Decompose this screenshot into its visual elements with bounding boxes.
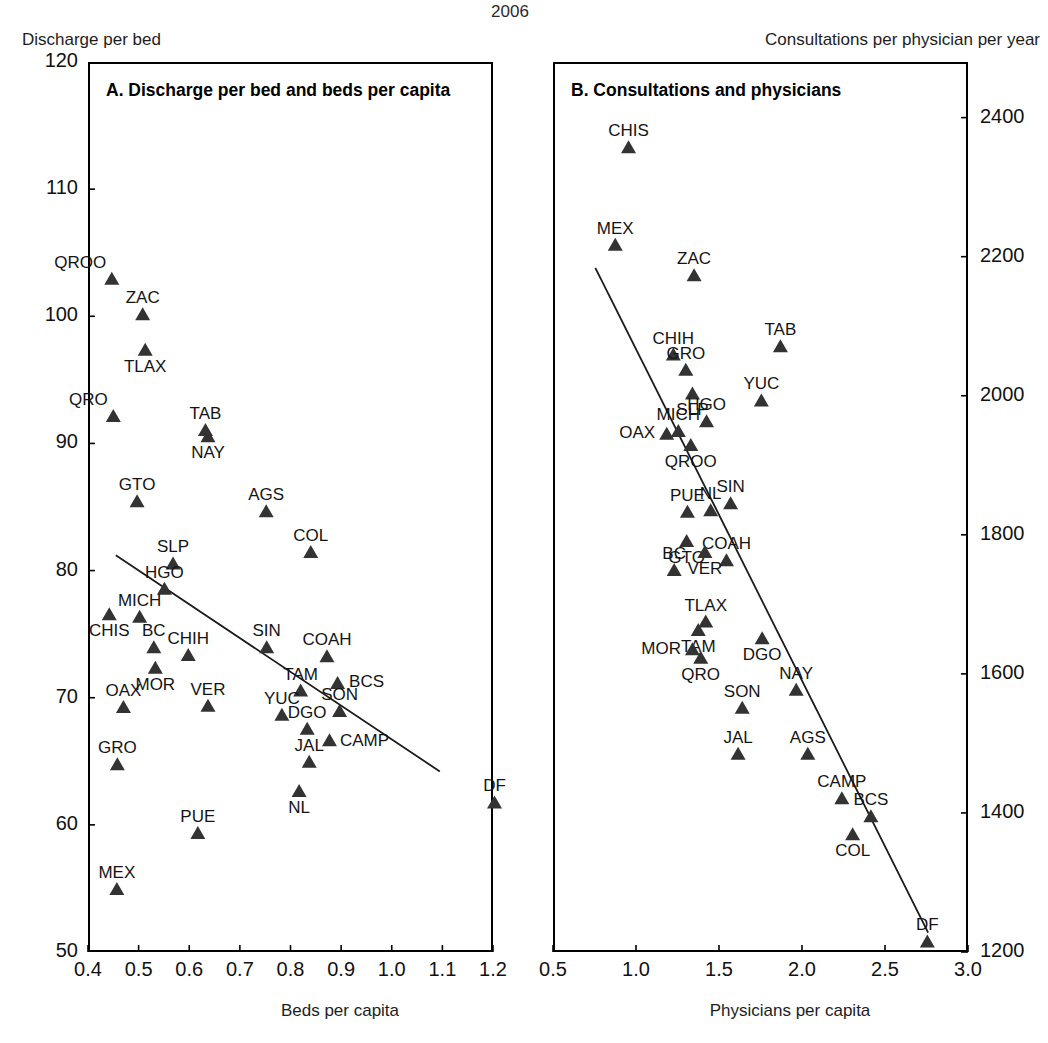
x-tick-label: 0.8 bbox=[264, 958, 318, 981]
y-tick-label: 50 bbox=[26, 939, 78, 962]
y-tick-label: 1200 bbox=[980, 939, 1042, 962]
y-tick-label: 1600 bbox=[980, 661, 1042, 684]
panel-a-title: A. Discharge per bed and beds per capita bbox=[106, 80, 450, 101]
panel-a-xaxis-title: Beds per capita bbox=[190, 1001, 490, 1021]
panel-a-plot-area bbox=[88, 62, 493, 952]
x-tick-label: 0.6 bbox=[162, 958, 216, 981]
x-tick-label: 1.5 bbox=[692, 958, 746, 981]
panel-b-plot-area bbox=[553, 62, 968, 952]
y-tick-label: 1400 bbox=[980, 800, 1042, 823]
year-caption: 2006 bbox=[440, 2, 580, 22]
y-tick-label: 2200 bbox=[980, 244, 1042, 267]
y-tick-label: 110 bbox=[26, 176, 78, 199]
right-unit-caption: Consultations per physician per year bbox=[765, 30, 1040, 50]
x-tick-label: 0.9 bbox=[314, 958, 368, 981]
x-tick-label: 1.1 bbox=[415, 958, 469, 981]
x-tick-label: 1.0 bbox=[609, 958, 663, 981]
panel-b-title: B. Consultations and physicians bbox=[571, 80, 841, 101]
x-tick-label: 0.5 bbox=[112, 958, 166, 981]
y-tick-label: 70 bbox=[26, 685, 78, 708]
y-tick-label: 90 bbox=[26, 430, 78, 453]
panel-b-xaxis-title: Physicians per capita bbox=[640, 1001, 940, 1021]
x-tick-label: 0.7 bbox=[213, 958, 267, 981]
y-tick-label: 100 bbox=[26, 303, 78, 326]
y-tick-label: 80 bbox=[26, 558, 78, 581]
y-tick-label: 60 bbox=[26, 812, 78, 835]
y-tick-label: 2000 bbox=[980, 383, 1042, 406]
x-tick-label: 0.5 bbox=[526, 958, 580, 981]
left-unit-caption: Discharge per bed bbox=[22, 30, 161, 50]
x-tick-label: 1.2 bbox=[466, 958, 520, 981]
x-tick-label: 2.5 bbox=[858, 958, 912, 981]
x-tick-label: 2.0 bbox=[775, 958, 829, 981]
x-tick-label: 1.0 bbox=[365, 958, 419, 981]
y-tick-label: 2400 bbox=[980, 105, 1042, 128]
figure-root: 2006 Discharge per bed Consultations per… bbox=[0, 0, 1048, 1043]
y-tick-label: 120 bbox=[26, 49, 78, 72]
y-tick-label: 1800 bbox=[980, 522, 1042, 545]
